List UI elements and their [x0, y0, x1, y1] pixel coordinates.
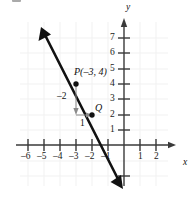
- y-tick-label-4: 4: [110, 79, 115, 89]
- x-tick-label--5: –5: [37, 152, 47, 162]
- rise-annotation-label: –2: [57, 92, 67, 102]
- x-tick-label--2: –2: [85, 152, 95, 162]
- x-tick-label--1: –1: [101, 152, 111, 162]
- graph-figure: x y –6 –5 –4 –3 –2 –1 1 2 1 2 3 4 5 6 7 …: [0, 0, 193, 198]
- y-tick-label-7: 7: [110, 33, 115, 43]
- x-tick-label-1: 1: [138, 152, 143, 162]
- y-tick-label-5: 5: [110, 64, 115, 74]
- point-label-q: Q: [95, 103, 102, 113]
- y-tick-label-6: 6: [110, 48, 115, 58]
- y-axis-label: y: [126, 3, 130, 13]
- y-tick-label-2: 2: [110, 110, 115, 120]
- x-tick-label--3: –3: [69, 152, 79, 162]
- x-tick-label--6: –6: [21, 152, 31, 162]
- y-tick-label-1: 1: [110, 125, 115, 135]
- x-tick-label--4: –4: [53, 152, 63, 162]
- coordinate-plane: [0, 0, 193, 198]
- x-axis-label: x: [183, 158, 187, 168]
- y-tick-label-3: 3: [110, 94, 115, 104]
- point-label-p: P(–3, 4): [74, 67, 107, 77]
- run-annotation-label: 1: [80, 119, 85, 129]
- x-tick-label-2: 2: [154, 152, 159, 162]
- x-axis: [16, 139, 176, 151]
